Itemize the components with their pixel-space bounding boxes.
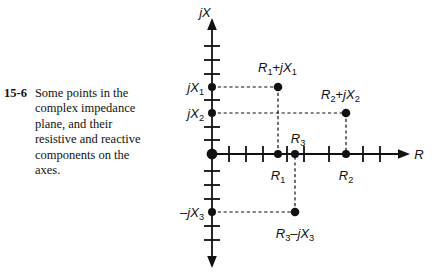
- axis-tick-label-jx2: jX2: [185, 106, 204, 123]
- axis-dot-jx1: [208, 83, 216, 91]
- axis-dot-r2: [342, 150, 350, 158]
- axis-tick-label-jx1: jX1: [185, 80, 204, 97]
- horizontal-axis: [212, 146, 410, 162]
- impedance-plane-diagram: jX R jX1 jX2 –jX3 R1 R3 R2 R1+jX1 R2+: [0, 0, 433, 273]
- horizontal-axis-arrow-right: [398, 149, 410, 159]
- axis-dot-r3: [291, 150, 299, 158]
- vertical-axis-arrow-down: [207, 256, 217, 268]
- point-dot-r2-plus-jx2: [342, 109, 351, 118]
- axis-dot-r1: [274, 150, 282, 158]
- point-label-r1-plus-jx1: R1+jX1: [258, 60, 297, 77]
- point-dot-r1-plus-jx1: [274, 83, 283, 92]
- axis-tick-label-r1: R1: [271, 168, 286, 185]
- point-label-r2-plus-jx2: R2+jX2: [321, 87, 360, 104]
- axis-tick-label-r3: R3: [291, 131, 306, 148]
- axis-tick-label-minus-jx3: –jX3: [180, 205, 204, 222]
- vertical-axis: [204, 18, 220, 268]
- horizontal-axis-label: R: [414, 147, 423, 162]
- origin-dot: [207, 149, 218, 160]
- point-dot-r3-minus-jx3: [291, 208, 300, 217]
- axis-dot-jx2: [208, 109, 216, 117]
- point-label-r3-minus-jx3: R3–jX3: [276, 226, 314, 243]
- axis-tick-label-r2: R2: [339, 168, 354, 185]
- vertical-axis-label: jX: [197, 5, 212, 20]
- projection-lines: [212, 87, 346, 212]
- axis-dot-minus-jx3: [208, 208, 216, 216]
